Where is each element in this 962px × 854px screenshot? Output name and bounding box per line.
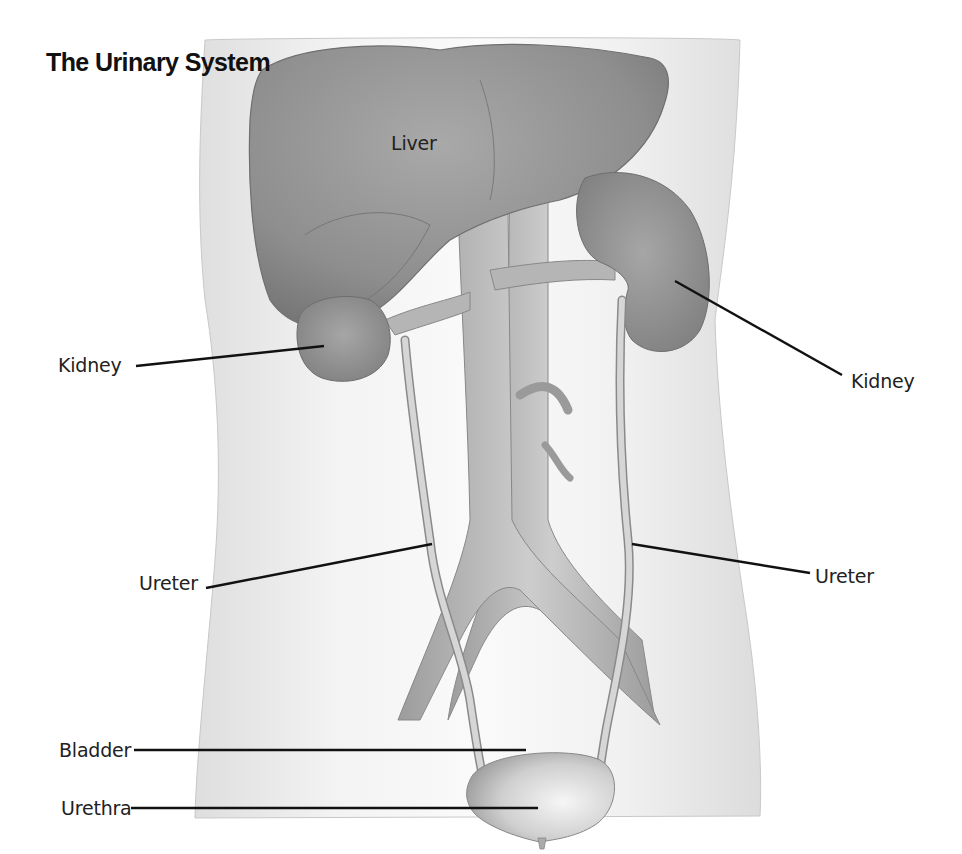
label-ureter-right: Ureter [815, 565, 874, 587]
diagram-title: The Urinary System [46, 48, 270, 77]
label-bladder: Bladder [59, 739, 131, 761]
label-kidney-right: Kidney [851, 370, 915, 392]
label-ureter-left: Ureter [139, 572, 198, 594]
label-liver: Liver [391, 132, 437, 154]
label-urethra: Urethra [61, 797, 132, 819]
anatomy-illustration [0, 0, 962, 854]
kidney-left [297, 296, 390, 381]
urinary-system-diagram: The Urinary System Liver Kidney Kidney U… [0, 0, 962, 854]
bladder [467, 753, 615, 849]
label-kidney-left: Kidney [58, 354, 122, 376]
